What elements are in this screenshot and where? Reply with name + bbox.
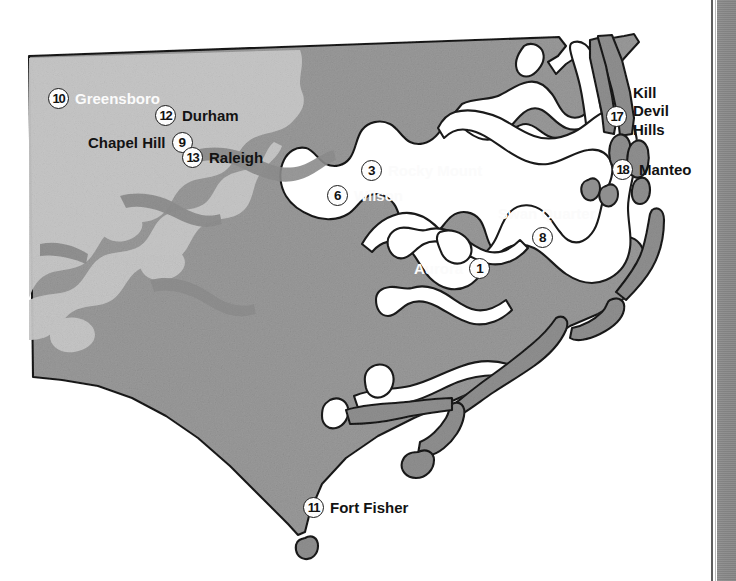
label-kill-devil-hills: Kill Devil Hills [627,84,675,139]
place-rocky-mount[interactable]: 3 Rocky Mount [361,160,488,181]
label-greensboro: Greensboro [69,91,166,106]
label-swan-quarter-wrap: Swan Quarter [492,206,602,221]
marker-18[interactable]: 18 [612,159,633,180]
label-fort-fisher: Fort Fisher [324,500,414,515]
place-fort-fisher[interactable]: 11 Fort Fisher [303,497,414,518]
marker-17[interactable]: 17 [606,106,627,127]
label-rocky-mount: Rocky Mount [382,163,488,178]
label-raleigh: Raleigh [203,150,269,165]
marker-12[interactable]: 12 [155,105,176,126]
label-manteo: Manteo [633,162,698,177]
marker-11[interactable]: 11 [303,497,324,518]
place-durham[interactable]: 12 Durham [155,105,245,126]
place-label-overlay: 10 Greensboro 12 Durham 9 Chapel Hill 13… [0,0,736,581]
label-aurora: Aurora [408,261,469,276]
label-wilson: Wilson [348,188,409,203]
marker-3[interactable]: 3 [361,160,382,181]
marker-10[interactable]: 10 [48,88,69,109]
place-manteo[interactable]: 18 Manteo [612,159,698,180]
place-swan-quarter[interactable]: 8 [532,227,553,248]
page-edge-rule [711,0,713,581]
label-swan-quarter: Swan Quarter [492,206,602,221]
marker-6[interactable]: 6 [327,185,348,206]
place-chapel-hill[interactable]: 9 Chapel Hill [82,132,193,153]
place-wilson[interactable]: 6 Wilson [327,185,409,206]
place-greensboro[interactable]: 10 Greensboro [48,88,166,109]
marker-1[interactable]: 1 [469,258,490,279]
page-edge-hairline [715,0,716,581]
page-edge-band [717,0,736,581]
place-raleigh[interactable]: 13 Raleigh [182,147,269,168]
marker-8[interactable]: 8 [532,227,553,248]
label-chapel-hill: Chapel Hill [82,135,172,150]
map-page: 10 Greensboro 12 Durham 9 Chapel Hill 13… [0,0,736,581]
label-durham: Durham [176,108,245,123]
place-aurora[interactable]: 1 Aurora [408,258,490,279]
place-kill-devil-hills[interactable]: 17 Kill Devil Hills [606,84,675,139]
marker-13[interactable]: 13 [182,147,203,168]
